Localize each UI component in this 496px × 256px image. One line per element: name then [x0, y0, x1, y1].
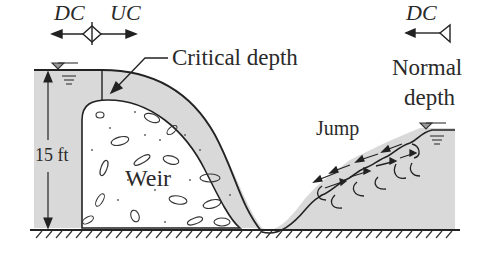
critical-depth-label: Critical depth [172, 46, 298, 69]
weir-diagram [0, 0, 496, 256]
weir-label: Weir [125, 166, 171, 190]
jump-label: Jump [316, 118, 359, 138]
dc-label-right: DC [406, 2, 437, 24]
dc-label-left: DC [54, 2, 85, 24]
dc-uc-symbol [52, 22, 136, 45]
height-label: 15 ft [35, 146, 69, 164]
normal-depth-label-line2: depth [404, 86, 455, 109]
dc-symbol-right [406, 25, 450, 42]
normal-depth-label-line1: Normal [392, 56, 462, 79]
ground-hatch [36, 231, 452, 238]
uc-label: UC [110, 2, 141, 24]
